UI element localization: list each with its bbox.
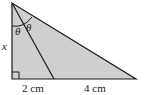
triangle-diagram: θ θ x 2 cm 4 cm bbox=[0, 0, 154, 95]
segment-label-2cm: 2 cm bbox=[22, 82, 44, 94]
segment-label-4cm: 4 cm bbox=[84, 82, 106, 94]
angle-label-left: θ bbox=[15, 25, 21, 37]
side-label-x: x bbox=[1, 40, 7, 52]
triangle-fill bbox=[12, 3, 136, 79]
angle-label-right: θ bbox=[26, 21, 32, 33]
